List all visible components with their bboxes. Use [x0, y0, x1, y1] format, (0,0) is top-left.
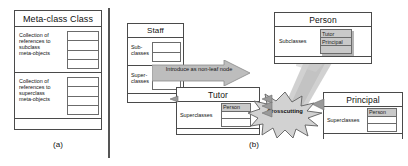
- staff-footer: [128, 94, 183, 102]
- metaclass-superclass-compartment: Collection of references to superclass m…: [15, 73, 101, 119]
- tutor-title: Tutor: [177, 88, 259, 102]
- principal-footer: [324, 134, 402, 139]
- slot[interactable]: [68, 78, 98, 87]
- slot[interactable]: [68, 51, 98, 60]
- slot[interactable]: [68, 97, 98, 106]
- person-footer: [275, 57, 371, 63]
- principal-superclasses-compartment: Superclasses Person: [324, 107, 402, 134]
- slot-person[interactable]: Person: [368, 109, 396, 117]
- metaclass-subclass-slots[interactable]: [67, 31, 99, 69]
- slot-person[interactable]: Person: [222, 104, 250, 112]
- staff-title: Staff: [128, 24, 183, 38]
- slot[interactable]: [222, 119, 250, 126]
- slot[interactable]: [68, 106, 98, 114]
- slot[interactable]: [368, 117, 396, 125]
- slot-tutor[interactable]: Tutor: [321, 30, 351, 38]
- label-line: Subclasses: [279, 38, 307, 44]
- metaclass-superclass-slots[interactable]: [67, 77, 99, 115]
- tutor-superclasses-slots[interactable]: Person: [221, 103, 251, 127]
- slot[interactable]: [68, 87, 98, 96]
- slot[interactable]: [68, 60, 98, 68]
- person-subclasses-label: Subclasses: [279, 38, 307, 44]
- staff-subclasses-label: Sub- classes: [131, 44, 149, 56]
- metaclass-class-title: Meta-class Class: [15, 11, 101, 27]
- principal-superclasses-label: Superclasses: [327, 117, 359, 123]
- slot[interactable]: [222, 112, 250, 120]
- staff-subclasses-slots[interactable]: [152, 42, 181, 62]
- metaclass-superclass-label: Collection of references to superclass m…: [19, 78, 50, 102]
- staff-superclasses-label: Super- classes: [131, 72, 149, 84]
- metaclass-subclass-label: Collection of references to subclass met…: [19, 32, 50, 56]
- label-line: Superclasses: [327, 117, 359, 123]
- tutor-footer: [177, 129, 259, 134]
- slot-label: Principal: [322, 39, 343, 45]
- label-line: classes: [131, 50, 149, 56]
- slot-label: Person: [369, 109, 386, 115]
- person-title: Person: [275, 13, 371, 27]
- slot[interactable]: [68, 41, 98, 50]
- slot-principal[interactable]: Principal: [321, 38, 351, 46]
- metaclass-subclass-compartment: Collection of references to subclass met…: [15, 27, 101, 73]
- caption-panel-b: (b): [224, 140, 284, 149]
- principal-superclasses-slots[interactable]: Person: [367, 108, 397, 132]
- person-subclasses-compartment: Subclasses Tutor Principal: [275, 27, 371, 57]
- metaclass-footer: [15, 119, 101, 129]
- crosscutting-starburst[interactable]: [248, 92, 322, 138]
- person-box[interactable]: Person Subclasses Tutor Principal: [274, 12, 372, 64]
- tutor-superclasses-label: Superclasses: [180, 112, 212, 118]
- figure-root: Meta-class Class Collection of reference…: [0, 0, 408, 166]
- label-line: meta-objects: [19, 50, 50, 56]
- label-line: classes: [131, 78, 149, 84]
- person-subclasses-slots[interactable]: Tutor Principal: [320, 29, 352, 54]
- panel-divider: [108, 8, 110, 158]
- slot-empty[interactable]: [321, 46, 351, 53]
- slot-label: Person: [223, 104, 240, 110]
- label-line: meta-objects: [19, 96, 50, 102]
- slot[interactable]: [368, 124, 396, 131]
- tutor-superclasses-compartment: Superclasses Person: [177, 102, 259, 129]
- metaclass-class-box[interactable]: Meta-class Class Collection of reference…: [14, 10, 102, 130]
- label-line: Superclasses: [180, 112, 212, 118]
- introduce-block-arrow[interactable]: [152, 60, 250, 86]
- principal-title: Principal: [324, 93, 402, 107]
- caption-panel-a: (a): [24, 140, 92, 149]
- slot-label: Tutor: [322, 31, 334, 37]
- slot[interactable]: [68, 32, 98, 41]
- slot[interactable]: [153, 43, 180, 53]
- principal-box[interactable]: Principal Superclasses Person: [323, 92, 403, 139]
